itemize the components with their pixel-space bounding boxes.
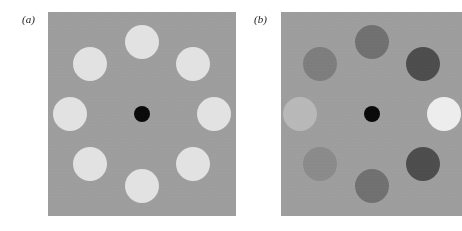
panel-b-disc-top-left [303, 47, 337, 81]
panel-b-disc-top-right [406, 47, 440, 81]
panel-a-disc-top-left [73, 47, 107, 81]
panel-a-disc-right [197, 97, 231, 131]
panel-a [48, 12, 236, 216]
panel-b-disc-top [355, 25, 389, 59]
panel-a-disc-bottom [125, 169, 159, 203]
panel-b-label: (b) [254, 14, 267, 25]
panel-a-disc-bottom-left [73, 147, 107, 181]
panel-a-disc-top [125, 25, 159, 59]
panel-a-disc-top-right [176, 47, 210, 81]
panel-b-disc-bottom [355, 169, 389, 203]
panel-a-label: (a) [22, 14, 35, 25]
panel-a-disc-bottom-right [176, 147, 210, 181]
panel-b-disc-bottom-left [303, 147, 337, 181]
panel-b-disc-right [427, 97, 461, 131]
figure-container: (a)(b) [0, 0, 462, 231]
panel-b-disc-left [283, 97, 317, 131]
panel-b-fixation-dot [364, 106, 380, 122]
panel-b-disc-bottom-right [406, 147, 440, 181]
panel-b [281, 12, 462, 216]
panel-a-disc-left [53, 97, 87, 131]
panel-a-fixation-dot [134, 106, 150, 122]
